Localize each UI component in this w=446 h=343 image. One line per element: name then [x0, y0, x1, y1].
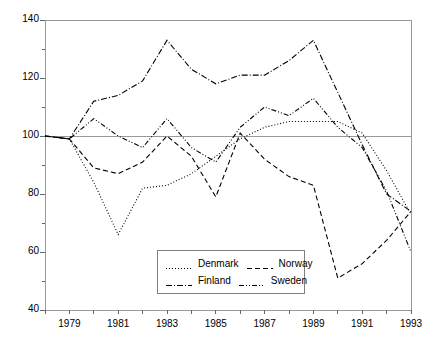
series-line-finland — [45, 40, 411, 211]
legend-swatch-denmark — [166, 259, 192, 268]
legend-swatch-sweden — [239, 276, 265, 285]
legend-entry-denmark: Denmark — [158, 258, 239, 269]
y-tick-label-120: 120 — [6, 71, 39, 82]
x-tick-label-1991: 1991 — [342, 318, 382, 329]
legend-entry-finland: Finland — [158, 275, 231, 286]
legend-swatch-finland — [166, 276, 192, 285]
legend-label-finland: Finland — [198, 275, 231, 286]
y-tick-label-60: 60 — [6, 245, 39, 256]
legend-row: Finland Sweden — [158, 272, 304, 289]
legend-swatch-norway — [247, 259, 273, 268]
x-tick-label-1983: 1983 — [147, 318, 187, 329]
series-layer — [45, 40, 411, 278]
x-tick-label-1987: 1987 — [245, 318, 285, 329]
line-chart: 406080100120140 197919811983198519871989… — [0, 0, 446, 343]
series-line-denmark — [45, 122, 411, 235]
legend-row: Denmark Norway — [158, 255, 304, 272]
y-tick-label-40: 40 — [6, 303, 39, 314]
y-tick-label-140: 140 — [6, 13, 39, 24]
y-tick-label-100: 100 — [6, 129, 39, 140]
legend-label-denmark: Denmark — [198, 258, 239, 269]
x-tick-label-1979: 1979 — [49, 318, 89, 329]
x-tick-label-1993: 1993 — [391, 318, 431, 329]
x-tick-label-1989: 1989 — [293, 318, 333, 329]
chart-legend: Denmark Norway Finland Sweden — [157, 250, 305, 294]
y-tick-label-80: 80 — [6, 187, 39, 198]
legend-label-sweden: Sweden — [271, 275, 307, 286]
legend-entry-norway: Norway — [239, 258, 313, 269]
legend-label-norway: Norway — [279, 258, 313, 269]
x-tick-label-1985: 1985 — [196, 318, 236, 329]
x-tick-label-1981: 1981 — [98, 318, 138, 329]
series-line-sweden — [45, 98, 411, 252]
legend-entry-sweden: Sweden — [231, 275, 307, 286]
